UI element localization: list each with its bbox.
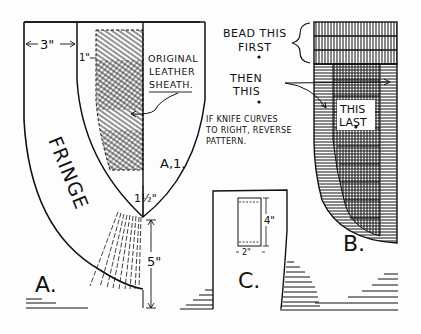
figure-a: 3" 1" ORIGINAL LEATHER SHEATH. A,1. FRIN… <box>24 22 205 308</box>
dim-width-label-c: 2" <box>242 248 251 257</box>
bead-rows-first <box>314 22 397 64</box>
dim-width-label: 3" <box>40 37 54 52</box>
sublabel-a1: A,1. <box>160 156 185 171</box>
figure-b: THIS LAST BEAD THIS FIRST THEN THIS IF K… <box>205 22 398 310</box>
dim-offset-label: 1" <box>79 52 90 63</box>
callout-sheath: SHEATH. <box>149 79 193 90</box>
knife-sheath-diagram: 3" 1" ORIGINAL LEATHER SHEATH. A,1. FRIN… <box>0 0 421 334</box>
step3-line2: LAST <box>339 116 367 129</box>
bullet <box>257 55 260 58</box>
bullet <box>257 100 260 103</box>
callout-original: ORIGINAL <box>148 53 198 64</box>
step1-line1: BEAD THIS <box>223 27 287 40</box>
step2-line1: THEN <box>229 72 262 85</box>
figure-c: 4" 2" C. <box>180 190 320 309</box>
dim-length-label: 5" <box>147 254 161 269</box>
step2-line2: THIS <box>232 85 260 98</box>
dim-height-label: 4" <box>264 215 275 226</box>
figure-c-label: C. <box>238 268 260 293</box>
fringe-strands <box>90 212 141 289</box>
figure-b-label: B. <box>343 231 365 256</box>
figure-a-label: A. <box>35 272 57 297</box>
cutout-rect <box>238 198 261 246</box>
note-line3: PATTERN. <box>206 137 246 146</box>
callout-leather: LEATHER <box>149 66 195 77</box>
brace-first <box>292 23 310 63</box>
step1-line2: FIRST <box>238 41 271 54</box>
fringe-label: FRINGE <box>44 133 93 212</box>
note-line1: IF KNIFE CURVES <box>206 115 278 124</box>
dim-tip-label: 1½" <box>134 192 157 205</box>
note-line2: TO RIGHT, REVERSE <box>205 126 292 135</box>
step3-line1: THIS <box>339 103 365 116</box>
